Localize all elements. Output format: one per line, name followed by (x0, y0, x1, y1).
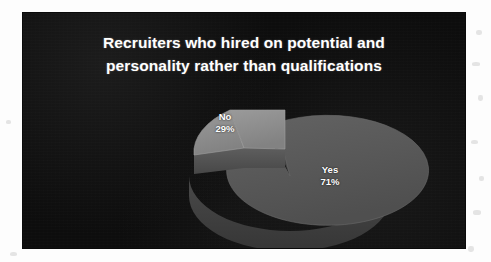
pie-label-no: No 29% (199, 111, 251, 135)
scan-speckle (6, 120, 11, 124)
scan-speckle (478, 95, 483, 101)
chart-title: Recruiters who hired on potential and pe… (23, 31, 465, 77)
pie-label-no-value: 29% (199, 123, 251, 135)
pie-label-yes: Yes 71% (304, 164, 356, 188)
scan-speckle (10, 252, 17, 256)
pie-label-yes-name: Yes (304, 164, 356, 176)
scan-speckle (472, 62, 480, 66)
scan-speckle (468, 246, 474, 252)
scan-speckle (473, 210, 481, 215)
scan-speckle (476, 30, 482, 35)
chart-title-line-2: personality rather than qualifications (23, 54, 465, 77)
pie-label-yes-value: 71% (304, 176, 356, 188)
pie-label-no-name: No (199, 111, 251, 123)
chart-title-line-1: Recruiters who hired on potential and (23, 31, 465, 54)
scan-speckle (471, 140, 478, 144)
slide-panel: Recruiters who hired on potential and pe… (23, 13, 465, 248)
scan-speckle (479, 176, 484, 181)
